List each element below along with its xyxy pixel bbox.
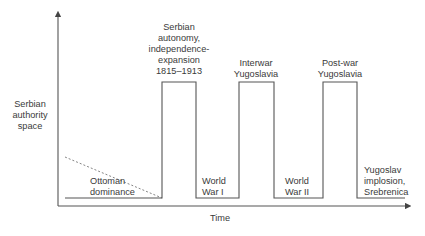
y-axis-label-line: space (2, 121, 58, 132)
phase-label-line: Ottoman (90, 176, 135, 187)
phase-label-line: Serbian (139, 22, 219, 33)
phase-label-line: Yugoslavia (310, 69, 370, 80)
phase-label-yugoslav-implosion: Yugoslav implosion, Srebrenica (364, 165, 408, 198)
phase-label-line: War I (202, 187, 226, 198)
phase-label-interwar: Interwar Yugoslavia (226, 58, 286, 80)
y-axis-label-line: authority (2, 110, 58, 121)
phase-label-line: Srebrenica (364, 187, 408, 198)
phase-label-line: World (285, 176, 309, 187)
phase-label-postwar: Post-war Yugoslavia (310, 58, 370, 80)
phase-label-serbian-autonomy: Serbian autonomy, independence- expansio… (139, 22, 219, 77)
phase-label-line: dominance (90, 187, 135, 198)
phase-label-line: expansion (139, 55, 219, 66)
phase-label-ww1: World War I (202, 176, 226, 198)
phase-label-ww2: World War II (285, 176, 309, 198)
phase-label-line: Post-war (310, 58, 370, 69)
phase-label-line: autonomy, (139, 33, 219, 44)
phase-label-line: independence- (139, 44, 219, 55)
phase-label-line: Yugoslavia (226, 69, 286, 80)
phase-label-line: World (202, 176, 226, 187)
x-axis-label: Time (205, 213, 235, 224)
phase-label-line: implosion, (364, 176, 408, 187)
phase-label-line: Yugoslav (364, 165, 408, 176)
phase-label-line: 1815–1913 (139, 66, 219, 77)
y-axis-label-line: Serbian (2, 99, 58, 110)
phase-label-ottoman: Ottoman dominance (90, 176, 135, 198)
phase-label-line: War II (285, 187, 309, 198)
phase-label-line: Interwar (226, 58, 286, 69)
y-axis-label: Serbian authority space (2, 99, 58, 132)
